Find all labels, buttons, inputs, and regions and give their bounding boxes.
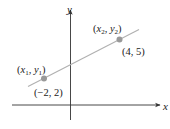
point-2-marker <box>117 37 123 43</box>
y-axis-label: y <box>66 3 72 15</box>
point-1-coordinate-label: (−2, 2) <box>34 87 63 99</box>
point-1-symbolic-label: (x1, y1) <box>17 64 46 77</box>
point-2-symbolic-label: (x2, y2) <box>93 23 122 36</box>
coordinate-plane-diagram: x y (x1, y1) (−2, 2) (x2, y2) (4, 5) <box>0 0 170 129</box>
point-2-coordinate-label: (4, 5) <box>122 46 145 58</box>
x-axis-label: x <box>162 100 168 112</box>
